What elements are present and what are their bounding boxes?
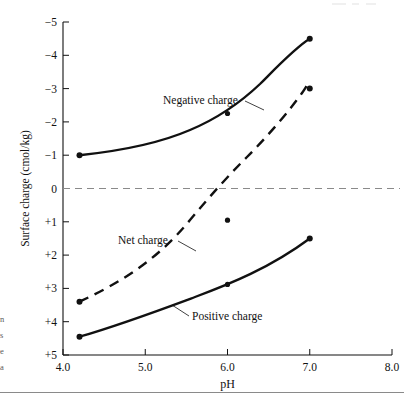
leader-line bbox=[245, 101, 264, 110]
y-tick-label: +4 bbox=[45, 316, 57, 328]
data-point-marker bbox=[307, 36, 313, 42]
x-tick-label: 8.0 bbox=[385, 361, 400, 373]
chart-figure: −5 −4 −3 −2 −1 0 +1 +2 +3 +4 +5 4.0 5.0 … bbox=[0, 0, 404, 402]
y-tick-label: +1 bbox=[45, 216, 57, 228]
surface-charge-chart: −5 −4 −3 −2 −1 0 +1 +2 +3 +4 +5 4.0 5.0 … bbox=[0, 0, 404, 402]
y-tick-label: +5 bbox=[45, 349, 57, 361]
y-tick-label: −1 bbox=[45, 149, 57, 161]
series-markers-positive-charge bbox=[77, 236, 313, 340]
x-tick-label: 5.0 bbox=[138, 361, 153, 373]
caption-fragment: a bbox=[0, 362, 7, 372]
x-tick-label: 7.0 bbox=[303, 361, 318, 373]
data-point-marker bbox=[225, 218, 230, 223]
annotation-net-charge: Net charge bbox=[118, 234, 196, 251]
data-point-marker bbox=[225, 282, 230, 287]
caption-fragment: n bbox=[0, 314, 7, 324]
y-tick-label: −5 bbox=[45, 16, 57, 28]
leader-line bbox=[172, 305, 189, 316]
annotation-negative-charge: Negative charge bbox=[163, 94, 264, 110]
data-point-marker bbox=[77, 299, 83, 305]
y-tick-label: +3 bbox=[45, 282, 57, 294]
x-axis-title: pH bbox=[220, 377, 235, 391]
caption-fragment: e bbox=[0, 346, 7, 356]
annotation-label-positive-charge: Positive charge bbox=[192, 310, 262, 323]
data-point-marker bbox=[77, 152, 83, 158]
x-axis-ticks bbox=[63, 349, 392, 355]
data-point-marker bbox=[307, 86, 313, 92]
leader-line bbox=[178, 241, 196, 251]
annotation-label-net-charge: Net charge bbox=[118, 234, 168, 247]
series-markers-net-charge bbox=[77, 86, 313, 305]
y-axis-title: Surface charge (cmol/kg) bbox=[19, 130, 32, 247]
y-tick-label: +2 bbox=[45, 249, 57, 261]
y-tick-label: −2 bbox=[45, 116, 57, 128]
annotation-positive-charge: Positive charge bbox=[172, 305, 262, 323]
y-tick-label: −3 bbox=[45, 83, 57, 95]
y-tick-label: −4 bbox=[45, 49, 57, 61]
caption-fragment: s bbox=[0, 330, 7, 340]
page-divider-rule bbox=[0, 392, 404, 393]
x-tick-label: 4.0 bbox=[56, 361, 71, 373]
data-point-marker bbox=[77, 334, 83, 340]
y-tick-label: 0 bbox=[51, 183, 57, 195]
annotation-label-negative-charge: Negative charge bbox=[163, 94, 238, 107]
series-line-net-charge bbox=[80, 84, 310, 301]
data-point-marker bbox=[225, 111, 230, 116]
y-tick-labels: −5 −4 −3 −2 −1 0 +1 +2 +3 +4 +5 bbox=[45, 16, 58, 361]
data-point-marker bbox=[307, 236, 313, 242]
x-tick-label: 6.0 bbox=[220, 361, 235, 373]
x-tick-labels: 4.0 5.0 6.0 7.0 8.0 bbox=[56, 361, 400, 373]
